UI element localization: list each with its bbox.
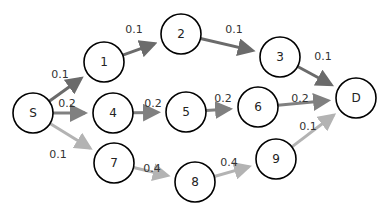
node-label: 5 (182, 105, 190, 119)
node-label: 2 (177, 27, 185, 41)
edge-weight-label: 0.4 (220, 156, 238, 169)
node-label: 4 (109, 106, 117, 120)
edge-weight-label: 0.1 (225, 23, 243, 36)
node-label: 1 (100, 55, 108, 69)
node-4: 4 (93, 93, 133, 133)
edge-S-to-7-arrow-icon (50, 124, 90, 149)
node-5: 5 (166, 92, 206, 132)
node-D: D (336, 78, 376, 118)
edge-weight-label: 0.2 (144, 97, 162, 110)
edge-weight-label: 0.1 (299, 120, 317, 133)
node-3: 3 (260, 37, 300, 77)
network-diagram: 0.10.10.10.10.20.20.20.20.10.40.40.1 S12… (0, 0, 388, 216)
node-label: S (29, 106, 37, 120)
node-1: 1 (84, 42, 124, 82)
edge-weight-label: 0.2 (291, 92, 309, 105)
node-9: 9 (256, 139, 296, 179)
node-label: 7 (110, 156, 118, 170)
edge-weight-label: 0.1 (314, 50, 332, 63)
node-label: 3 (276, 50, 284, 64)
node-label: 6 (254, 100, 262, 114)
edge-weight-label: 0.1 (125, 23, 143, 36)
node-6: 6 (238, 87, 278, 127)
edge-weight-label: 0.1 (49, 148, 67, 161)
node-8: 8 (175, 162, 215, 202)
node-2: 2 (161, 14, 201, 54)
edge-weight-label: 0.2 (58, 97, 76, 110)
node-label: 9 (272, 152, 280, 166)
edge-5-to-6-arrow-icon (206, 109, 230, 111)
edge-3-to-D-arrow-icon (298, 66, 332, 84)
node-S: S (13, 93, 53, 133)
edge-2-to-3-arrow-icon (200, 39, 252, 51)
node-label: D (351, 91, 360, 105)
node-label: 8 (191, 175, 199, 189)
edge-1-to-2-arrow-icon (123, 44, 155, 56)
node-7: 7 (94, 143, 134, 183)
edge-weight-label: 0.1 (51, 68, 69, 81)
edge-weight-label: 0.4 (143, 162, 161, 175)
edge-weight-label: 0.2 (214, 92, 232, 105)
